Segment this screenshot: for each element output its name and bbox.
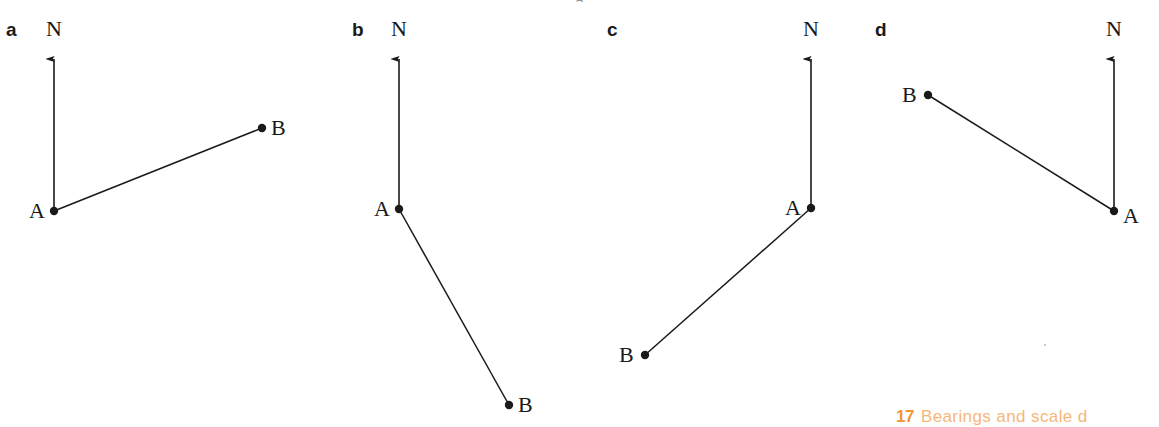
page-footer-note: 17Bearings and scale d: [896, 407, 1088, 427]
north-label-c: N: [803, 18, 819, 40]
panel-a: [50, 59, 266, 215]
panel-letter-a: a: [6, 20, 17, 39]
panel-d: [924, 59, 1118, 215]
chapter-title: Bearings and scale d: [921, 407, 1088, 426]
label-point-a-b: A: [374, 198, 390, 220]
point-a-a: [50, 207, 58, 215]
point-a-b: [395, 205, 403, 213]
chapter-number: 17: [896, 407, 914, 426]
segment-ab-d: [928, 95, 1114, 211]
label-point-b-b: B: [518, 394, 533, 416]
label-point-a-c: A: [785, 197, 801, 219]
label-point-a-d: A: [1123, 205, 1139, 227]
point-a-c: [807, 204, 815, 212]
panel-letter-d: d: [875, 20, 887, 39]
segment-ab-a: [54, 128, 262, 211]
panel-b: [395, 59, 513, 409]
point-b-a: [258, 124, 266, 132]
north-label-a: N: [46, 18, 62, 40]
label-point-b-c: B: [619, 344, 634, 366]
point-b-b: [505, 401, 513, 409]
point-b-d: [924, 91, 932, 99]
dust-speck: [1044, 344, 1046, 346]
panel-letter-c: c: [607, 20, 618, 39]
north-label-d: N: [1106, 18, 1122, 40]
label-point-b-d: B: [902, 84, 917, 106]
label-point-b-a: B: [271, 117, 286, 139]
point-b-c: [641, 351, 649, 359]
point-a-d: [1110, 207, 1118, 215]
figure-page: g aNABbNABcNABdNAB 17Bearings and scale …: [0, 0, 1159, 427]
segment-ab-b: [399, 209, 509, 405]
panel-letter-b: b: [352, 20, 364, 39]
label-point-a-a: A: [29, 200, 45, 222]
segment-ab-c: [645, 208, 811, 355]
bearing-diagrams-svg: [0, 0, 1159, 427]
north-label-b: N: [391, 18, 407, 40]
